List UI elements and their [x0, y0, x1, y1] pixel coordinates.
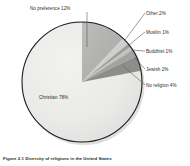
pie-chart: No preference 12% Other 2% Muslim 1% Bud… — [0, 0, 190, 150]
pie-chart-svg — [0, 0, 190, 150]
slice-label-no-preference: No preference 12% — [30, 6, 70, 12]
slice-label-other: Other 2% — [146, 11, 166, 17]
slice-label-christian: Christian 78% — [39, 95, 68, 101]
leader-line-muslim — [129, 32, 145, 45]
leader-line-other — [125, 13, 145, 40]
slice-label-jewish: Jewish 2% — [146, 67, 168, 73]
figure-container: No preference 12% Other 2% Muslim 1% Bud… — [0, 0, 190, 166]
slice-label-buddhist: Buddhist 1% — [146, 49, 172, 55]
slice-label-muslim: Muslim 1% — [146, 30, 169, 36]
slice-label-no-religion: No religion 4% — [146, 83, 177, 89]
figure-caption: Figure 2.1 Diversity of religions in the… — [3, 155, 187, 162]
